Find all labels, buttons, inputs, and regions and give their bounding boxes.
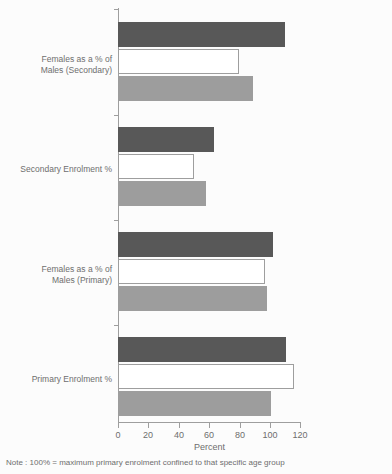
category-label-line: Males (Primary) (52, 275, 112, 285)
x-axis-tick-label: 120 (292, 430, 307, 440)
category-axis-labels: Females as a % of Males (Secondary) Seco… (8, 0, 112, 474)
bar-series-2-primary-enrolment (118, 364, 294, 389)
x-axis-tick-label: 60 (204, 430, 214, 440)
category-label-line: Females as a % of (42, 54, 112, 64)
chart-note: Note : 100% = maximum primary enrolment … (6, 458, 285, 467)
x-axis-tick (300, 423, 301, 428)
bar-series-1-primary-enrolment (118, 337, 286, 362)
x-axis-tick-label: 100 (262, 430, 277, 440)
x-axis-tick (270, 423, 271, 428)
x-axis-tick-label: 0 (115, 430, 120, 440)
bar-series-3-primary-enrolment (118, 391, 271, 416)
bar-series-3-females-as-a-of-males-secondary (118, 76, 253, 101)
bar-series-1-females-as-a-of-males-primary (118, 232, 273, 257)
bar-series-3-females-as-a-of-males-primary (118, 286, 267, 311)
plot-area (118, 8, 300, 422)
x-axis-tick (118, 423, 119, 428)
bar-series-2-females-as-a-of-males-primary (118, 259, 265, 284)
bar-series-1-secondary-enrolment (118, 127, 214, 152)
category-label-line: Females as a % of (42, 264, 112, 274)
x-axis-tick (240, 423, 241, 428)
category-label-line: Males (Secondary) (41, 65, 112, 75)
x-axis-title: Percent (118, 442, 301, 452)
x-axis-tick-label: 80 (235, 430, 245, 440)
x-axis-tick-label: 40 (174, 430, 184, 440)
category-label-females-secondary: Females as a % of Males (Secondary) (8, 54, 112, 76)
category-label-primary-enrolment: Primary Enrolment % (8, 374, 112, 385)
x-axis-tick (148, 423, 149, 428)
bar-series-2-secondary-enrolment (118, 154, 194, 179)
x-axis-tick (209, 423, 210, 428)
bar-series-1-females-as-a-of-males-secondary (118, 22, 285, 47)
category-label-secondary-enrolment: Secondary Enrolment % (8, 164, 112, 175)
bar-series-2-females-as-a-of-males-secondary (118, 49, 239, 74)
chart-figure: 0 20 40 60 80 100 120 Percent Females as… (0, 0, 392, 474)
category-label-females-primary: Females as a % of Males (Primary) (8, 264, 112, 286)
x-axis-tick-label: 20 (143, 430, 153, 440)
bar-series-3-secondary-enrolment (118, 181, 206, 206)
x-axis-tick (179, 423, 180, 428)
